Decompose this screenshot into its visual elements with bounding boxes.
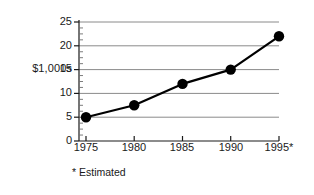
plot-area (0, 0, 314, 195)
data-point-1980 (129, 100, 139, 110)
gridlines (79, 22, 279, 117)
data-point-1990 (226, 64, 236, 74)
data-line-series (86, 36, 279, 117)
line-chart: $1,000s 25 20 15 10 5 0 1975 1980 1985 1… (0, 0, 314, 195)
data-point-1985 (177, 79, 187, 89)
data-markers (81, 31, 284, 122)
x-major-ticks (86, 136, 279, 141)
data-point-1995 (274, 31, 284, 41)
y-major-ticks (74, 22, 79, 141)
data-point-1975 (81, 112, 91, 122)
